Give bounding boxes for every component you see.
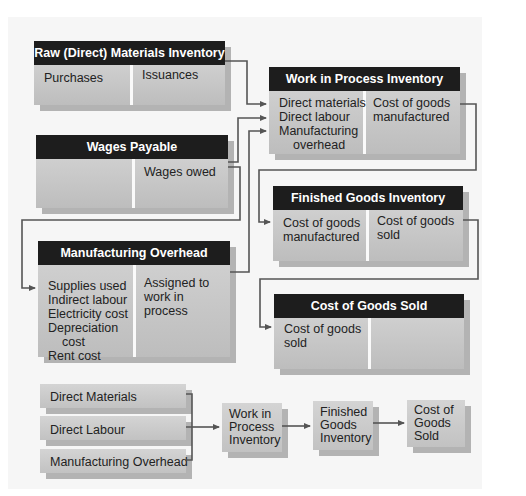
t-divider bbox=[368, 318, 371, 369]
finished-goods-inventory-account: Finished Goods Inventory Cost of goods m… bbox=[273, 186, 463, 261]
t-divider bbox=[133, 265, 136, 357]
debit-column: Purchases bbox=[44, 71, 103, 85]
debit-column: Cost of goods manufactured bbox=[283, 216, 360, 244]
account-title: Manufacturing Overhead bbox=[38, 241, 230, 265]
box-face: Finished Goods Inventory bbox=[313, 401, 373, 450]
box-face: Direct Labour bbox=[40, 416, 186, 440]
cost-of-goods-sold-account: Cost of Goods Sold Cost of goods sold bbox=[274, 294, 464, 369]
account-title: Wages Payable bbox=[36, 135, 228, 159]
debit-column: Direct materials Direct labour Manufactu… bbox=[279, 96, 366, 152]
raw-materials-inventory-account: Raw (Direct) Materials Inventory Purchas… bbox=[34, 41, 225, 105]
box-face: Work in Process Inventory bbox=[222, 403, 282, 452]
t-divider bbox=[132, 159, 135, 208]
stage-cost-of-goods-sold: Cost of Goods Sold bbox=[407, 400, 465, 447]
credit-column: Issuances bbox=[142, 68, 198, 82]
wages-payable-account: Wages Payable Wages owed bbox=[36, 135, 228, 208]
input-direct-materials: Direct Materials bbox=[40, 384, 186, 408]
t-divider bbox=[130, 65, 133, 105]
box-face: Cost of Goods Sold bbox=[407, 400, 465, 447]
account-title: Cost of Goods Sold bbox=[274, 294, 464, 318]
box-face: Direct Materials bbox=[40, 384, 186, 408]
input-direct-labour: Direct Labour bbox=[40, 416, 186, 440]
stage-finished-goods: Finished Goods Inventory bbox=[313, 401, 373, 450]
manufacturing-overhead-account: Manufacturing Overhead Supplies used Ind… bbox=[38, 241, 230, 357]
credit-column: Cost of goods manufactured bbox=[373, 96, 450, 124]
stage-work-in-process: Work in Process Inventory bbox=[222, 403, 282, 452]
credit-column: Assigned to work in process bbox=[144, 276, 209, 318]
box-face: Manufacturing Overhead bbox=[40, 449, 186, 473]
work-in-process-inventory-account: Work in Process Inventory Direct materia… bbox=[269, 67, 460, 154]
debit-column: Supplies used Indirect labour Electricit… bbox=[48, 279, 128, 363]
credit-column: Cost of goods sold bbox=[377, 214, 454, 242]
t-divider bbox=[366, 210, 369, 261]
input-manufacturing-overhead: Manufacturing Overhead bbox=[40, 449, 186, 473]
credit-column: Wages owed bbox=[144, 165, 216, 179]
account-title: Raw (Direct) Materials Inventory bbox=[34, 41, 225, 65]
account-title: Work in Process Inventory bbox=[269, 67, 460, 91]
account-title: Finished Goods Inventory bbox=[273, 186, 463, 210]
debit-column: Cost of goods sold bbox=[284, 322, 361, 350]
